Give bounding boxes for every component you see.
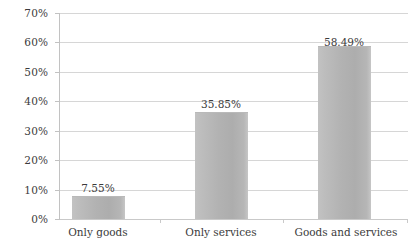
x-category-label-only-goods: Only goods bbox=[38, 227, 158, 238]
y-tick-label-10: 10% bbox=[0, 185, 48, 195]
y-tick-label-60: 60% bbox=[0, 37, 48, 47]
bar-only-goods[interactable] bbox=[72, 196, 125, 219]
bar-only-services[interactable] bbox=[195, 112, 248, 219]
y-tick-label-20: 20% bbox=[0, 155, 48, 165]
gridline-0 bbox=[59, 219, 408, 220]
y-tick-mark-30 bbox=[55, 131, 60, 132]
y-tick-label-30: 30% bbox=[0, 126, 48, 136]
data-label-only-goods: 7.55% bbox=[48, 183, 148, 194]
y-tick-mark-60 bbox=[55, 42, 60, 43]
data-label-goods-and-services: 58.49% bbox=[294, 37, 394, 48]
y-tick-mark-20 bbox=[55, 160, 60, 161]
y-tick-mark-0 bbox=[55, 219, 60, 220]
x-tick-mark-2 bbox=[283, 219, 284, 223]
y-tick-label-70: 70% bbox=[0, 8, 48, 18]
x-tick-mark-1 bbox=[160, 219, 161, 223]
x-category-label-only-services: Only services bbox=[161, 227, 281, 238]
data-label-only-services: 35.85% bbox=[171, 99, 271, 110]
y-tick-label-50: 50% bbox=[0, 67, 48, 77]
y-tick-label-0: 0% bbox=[0, 214, 48, 224]
y-tick-mark-70 bbox=[55, 13, 60, 14]
bar-chart: 70% 60% 50% 40% 30% 20% 10% 0% 7.55% 35.… bbox=[0, 0, 413, 244]
x-category-label-goods-and-services: Goods and services bbox=[284, 227, 408, 238]
gridline-70 bbox=[59, 13, 408, 14]
y-tick-label-40: 40% bbox=[0, 96, 48, 106]
y-tick-mark-40 bbox=[55, 101, 60, 102]
y-tick-mark-50 bbox=[55, 72, 60, 73]
x-tick-mark-3 bbox=[407, 219, 408, 223]
bar-goods-and-services[interactable] bbox=[318, 46, 371, 219]
